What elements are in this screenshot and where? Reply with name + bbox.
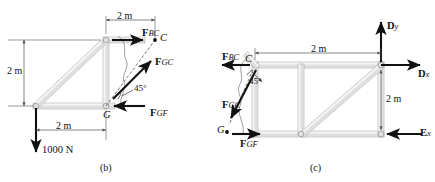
point-label-G-b: G [103, 110, 111, 121]
dimension-label-right-c: 2 m [386, 94, 401, 104]
joint-top-b [103, 37, 109, 43]
caption-c: (c) [310, 163, 321, 173]
force-label-fgf-c: FGF [240, 139, 258, 150]
dimension-label-left-b: 2 m [7, 66, 22, 76]
member-middle-vertical-c [298, 64, 304, 134]
force-arrow-fgc-b [113, 61, 151, 99]
point-label-G-c: G [217, 125, 225, 136]
force-label-fgc-c: FGC [222, 100, 240, 111]
truss-members-c [252, 62, 384, 138]
force-label-dx-c: Dx [418, 69, 429, 80]
dimension-label-top-b: 2 m [117, 11, 132, 21]
load-label-1000n: 1000 N [42, 145, 73, 156]
member-bottom-chord-c [252, 131, 384, 137]
member-diagonal-c [300, 63, 385, 138]
angle-label-b: 45° [134, 84, 147, 93]
joint-bottom-mid-c [298, 131, 304, 137]
point-label-C-b: C [160, 33, 167, 44]
point-label-C-c: C [245, 54, 252, 65]
angle-label-c: 45° [249, 77, 262, 86]
member-diagonal-b [32, 40, 104, 109]
force-label-fbc-c: FBC [222, 52, 239, 63]
force-label-dy-c: Dy [387, 21, 398, 32]
member-vertical-b [103, 40, 109, 106]
point-C-dot-b [153, 38, 157, 42]
truss-members-b [32, 37, 145, 110]
force-label-fgf-b: FGF [150, 108, 168, 119]
dimension-label-bottom-b: 2 m [56, 121, 71, 131]
member-top-chord-c [252, 62, 384, 68]
line-of-action-gc-b [106, 40, 155, 106]
point-G-dot-c [225, 130, 229, 134]
caption-b: (b) [100, 163, 112, 173]
force-label-ex-c: Ex [420, 128, 431, 139]
angle-arc-c [247, 70, 252, 75]
joint-bottom-left-b [33, 103, 38, 108]
dimension-label-top-c: 2 m [311, 44, 326, 54]
joint-E-c [378, 131, 384, 137]
force-label-fgc-b: FGC [155, 57, 173, 68]
force-label-fbc-b: FBC [142, 28, 159, 39]
